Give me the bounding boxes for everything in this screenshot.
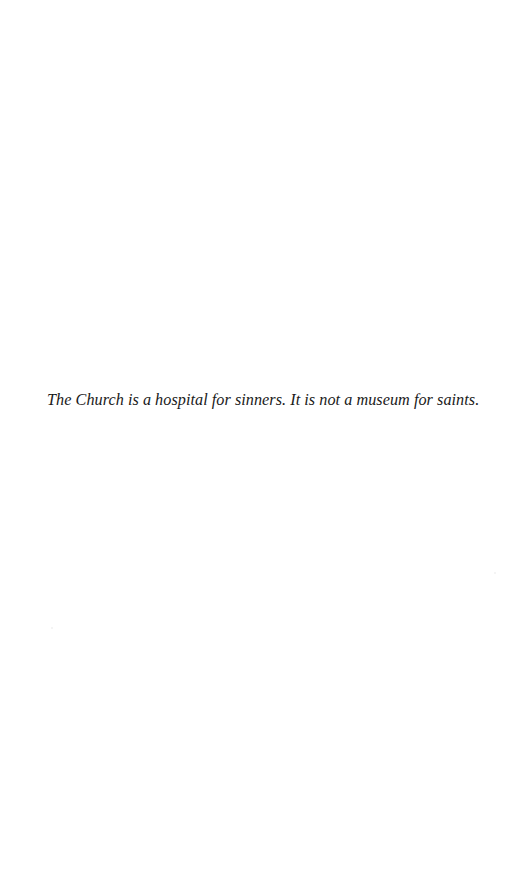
quote-text: The Church is a hospital for sinners. It…	[47, 390, 467, 410]
scan-speck	[494, 572, 496, 574]
document-page: The Church is a hospital for sinners. It…	[0, 0, 515, 875]
scan-speck	[51, 627, 53, 629]
